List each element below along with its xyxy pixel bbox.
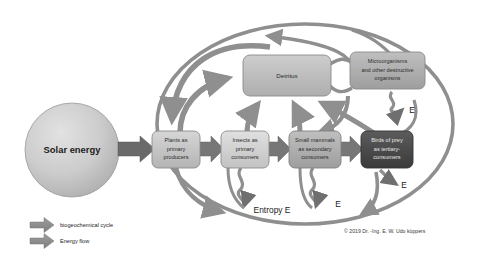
- microorganisms-label-line1: Microorganisms: [368, 58, 408, 64]
- legend-arrow-energy-flow-icon: [30, 234, 54, 249]
- arrow-mammals-to-detritus: [294, 104, 300, 133]
- entropy-arrow-birds-bottom: [362, 172, 377, 214]
- arrow-detritus-down-left: [318, 96, 348, 134]
- arrow-insects-to-detritus: [247, 104, 258, 133]
- solar-energy-node[interactable]: Solar energy: [25, 103, 119, 197]
- node-plants[interactable]: Plants as primary producers: [152, 131, 200, 168]
- entropy-label-micro: E: [409, 105, 415, 115]
- legend-label-biogeochemical: biogeochemical cycle: [60, 222, 113, 228]
- legend-arrow-biogeochemical-icon: [30, 218, 54, 233]
- mammals-label-line1: Small mammals: [295, 137, 335, 143]
- insects-label-line2: primary: [236, 146, 255, 152]
- arrow-solar-to-plants: [118, 136, 155, 162]
- detritus-label: Detritus: [276, 72, 297, 79]
- entropy-arrow-birds: [380, 170, 396, 184]
- entropy-squiggle-mammals: [310, 168, 316, 206]
- birds-label-line3: consumers: [373, 154, 401, 160]
- node-birds-of-prey[interactable]: Birds of prey as tertiary- consumers: [361, 131, 413, 168]
- node-insects[interactable]: Insects as primary consumers: [221, 131, 269, 168]
- entropy-squiggle-micro: [390, 92, 402, 112]
- arrow-mammals-to-birds: [339, 136, 363, 162]
- diagram-canvas: Solar energy: [0, 0, 478, 259]
- plants-label-line2: primary: [167, 146, 186, 152]
- legend: biogeochemical cycle Energy flow: [30, 218, 113, 249]
- arrow-insects-to-mammals: [267, 136, 291, 162]
- arrow-detritus-to-micro: [330, 59, 352, 64]
- detritus-microorganism-loop: [330, 59, 352, 91]
- birds-label-line2: as tertiary-: [374, 146, 401, 152]
- microorganisms-label-line3: organisms: [375, 75, 401, 81]
- detritus-node[interactable]: Detritus: [243, 55, 331, 96]
- insects-label-line1: Insects as: [232, 137, 257, 143]
- arrow-plants-to-insects: [198, 136, 224, 162]
- entropy-main-label: Entropy E: [254, 205, 291, 215]
- insects-label-line3: consumers: [231, 154, 259, 160]
- legend-item-biogeochemical[interactable]: biogeochemical cycle: [30, 218, 113, 233]
- arrow-micro-to-detritus: [330, 86, 352, 92]
- arrow-plants-to-detritus: [180, 78, 228, 133]
- legend-item-energy-flow[interactable]: Energy flow: [30, 234, 90, 249]
- entropy-label-birds: E: [401, 180, 407, 190]
- mammals-label-line2: as secondary: [298, 146, 331, 152]
- microorganisms-node[interactable]: Microorganisms and other destructive org…: [350, 52, 425, 89]
- entropy-label-mammals: E: [335, 199, 341, 209]
- solar-energy-label: Solar energy: [44, 144, 102, 155]
- legend-label-energy-flow: Energy flow: [60, 238, 90, 244]
- microorganisms-label-line2: and other destructive: [361, 67, 413, 73]
- mammals-label-line3: consumers: [301, 154, 329, 160]
- plants-label-line3: producers: [164, 154, 189, 160]
- entropy-squiggle-insects: [238, 168, 244, 206]
- birds-label-line1: Birds of prey: [371, 137, 403, 143]
- node-small-mammals[interactable]: Small mammals as secondary consumers: [289, 131, 341, 168]
- plants-label-line1: Plants as: [164, 137, 187, 143]
- copyright-notice: © 2019 Dr. -Ing. E. W. Udo küppers: [344, 228, 426, 234]
